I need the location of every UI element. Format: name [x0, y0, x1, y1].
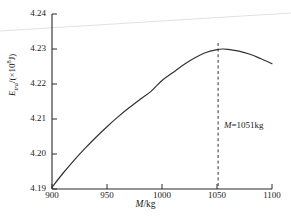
x-axis-title-unit: /kg	[143, 199, 155, 209]
y-axis-title-unit-exponent: 8	[5, 60, 12, 63]
y-axis-title-symbol: E	[7, 91, 17, 97]
y-tick-label-4.20: 4.20	[14, 148, 46, 158]
y-tick-marks	[52, 14, 57, 189]
optimal-mass-value: =1051kg	[232, 120, 264, 130]
x-tick-marks	[52, 184, 272, 189]
x-axis-title: M/kg	[0, 199, 291, 209]
y-axis-title-unit-suffix: J)	[7, 54, 17, 61]
chart-figure: 4.24 4.23 4.22 4.21 4.20 4.19 900 950 10…	[0, 0, 291, 220]
optimal-mass-symbol: M	[224, 120, 232, 130]
y-axis-title-subscript: tra	[12, 83, 19, 91]
y-axis-title: Etra/(×108J)	[5, 15, 19, 135]
y-axis-title-unit-prefix: /(×10	[7, 63, 17, 83]
optimal-mass-annotation: M=1051kg	[224, 120, 264, 130]
energy-curve	[52, 49, 272, 187]
